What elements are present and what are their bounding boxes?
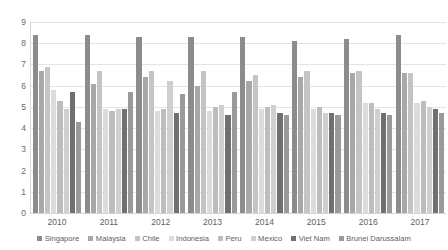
bar[interactable] xyxy=(213,107,218,213)
legend-item[interactable]: Indonesia xyxy=(169,234,209,243)
legend-label: Brunei Darussalam xyxy=(346,234,411,243)
bar[interactable] xyxy=(363,103,368,213)
x-axis-category-label: 2011 xyxy=(83,214,135,230)
plot-area: 0123456789 20102011201220132014201520162… xyxy=(0,0,448,216)
bar[interactable] xyxy=(64,109,69,213)
bar[interactable] xyxy=(195,86,200,213)
legend-item[interactable]: Malaysia xyxy=(88,234,125,243)
bar-group xyxy=(394,22,446,213)
bar-group xyxy=(342,22,394,213)
bar[interactable] xyxy=(396,35,401,213)
bar[interactable] xyxy=(375,109,380,213)
bar[interactable] xyxy=(414,103,419,213)
bar[interactable] xyxy=(97,71,102,213)
bar[interactable] xyxy=(369,103,374,213)
bar[interactable] xyxy=(277,113,282,213)
bar[interactable] xyxy=(284,115,289,213)
bar[interactable] xyxy=(439,113,444,213)
x-axis-category-label: 2010 xyxy=(31,214,83,230)
legend-item[interactable]: Chile xyxy=(135,234,160,243)
bar[interactable] xyxy=(265,107,270,213)
bar[interactable] xyxy=(317,107,322,213)
y-axis-tick-label: 2 xyxy=(4,167,26,175)
legend-swatch-icon xyxy=(218,236,223,241)
bar[interactable] xyxy=(232,92,237,213)
bar[interactable] xyxy=(304,71,309,213)
bar[interactable] xyxy=(329,113,334,213)
legend-item[interactable]: Brunei Darussalam xyxy=(339,234,411,243)
bar[interactable] xyxy=(323,113,328,213)
bar[interactable] xyxy=(116,109,121,213)
bar-group xyxy=(83,22,135,213)
bar[interactable] xyxy=(292,41,297,213)
bar[interactable] xyxy=(155,111,160,213)
bar[interactable] xyxy=(271,105,276,213)
y-axis-tick-label: 5 xyxy=(4,103,26,111)
bar[interactable] xyxy=(344,39,349,213)
bar[interactable] xyxy=(350,73,355,213)
bar[interactable] xyxy=(433,109,438,213)
y-axis-tick-label: 4 xyxy=(4,124,26,132)
bar[interactable] xyxy=(408,73,413,213)
x-axis-category-labels: 20102011201220132014201520162017 xyxy=(31,214,446,230)
bar[interactable] xyxy=(45,67,50,213)
legend-item[interactable]: Peru xyxy=(218,234,242,243)
bar[interactable] xyxy=(103,109,108,213)
bar[interactable] xyxy=(240,37,245,213)
legend-swatch-icon xyxy=(88,236,93,241)
bar[interactable] xyxy=(167,81,172,213)
bar[interactable] xyxy=(149,71,154,213)
bar[interactable] xyxy=(76,122,81,213)
bar[interactable] xyxy=(402,73,407,213)
y-axis-tick-label: 3 xyxy=(4,145,26,153)
bar[interactable] xyxy=(85,35,90,213)
y-axis-tick-label: 9 xyxy=(4,18,26,26)
bar[interactable] xyxy=(225,115,230,213)
legend-label: Chile xyxy=(142,234,159,243)
bar[interactable] xyxy=(207,111,212,213)
bar[interactable] xyxy=(311,109,316,213)
y-axis-tick-label: 8 xyxy=(4,39,26,47)
legend-item[interactable]: Mexico xyxy=(251,234,283,243)
bar[interactable] xyxy=(387,115,392,213)
x-axis-category-label: 2016 xyxy=(342,214,394,230)
bar[interactable] xyxy=(57,101,62,213)
bar[interactable] xyxy=(201,71,206,213)
bar[interactable] xyxy=(259,109,264,213)
bar[interactable] xyxy=(421,101,426,213)
legend-item[interactable]: Singapore xyxy=(37,234,79,243)
bar[interactable] xyxy=(143,77,148,213)
bar[interactable] xyxy=(109,111,114,213)
bar-group xyxy=(239,22,291,213)
bar[interactable] xyxy=(219,105,224,213)
legend-swatch-icon xyxy=(37,236,42,241)
bar[interactable] xyxy=(128,92,133,213)
bar[interactable] xyxy=(136,37,141,213)
legend-item[interactable]: Viet Nam xyxy=(291,234,330,243)
bar[interactable] xyxy=(70,92,75,213)
legend-label: Malaysia xyxy=(96,234,126,243)
bar[interactable] xyxy=(91,84,96,213)
bar[interactable] xyxy=(381,113,386,213)
bar[interactable] xyxy=(122,109,127,213)
legend-swatch-icon xyxy=(291,236,296,241)
bar-groups xyxy=(31,22,446,213)
bar[interactable] xyxy=(335,115,340,213)
x-axis-category-label: 2012 xyxy=(135,214,187,230)
x-axis-category-label: 2013 xyxy=(187,214,239,230)
bar[interactable] xyxy=(298,77,303,213)
bar[interactable] xyxy=(253,75,258,213)
bar[interactable] xyxy=(33,35,38,213)
bar[interactable] xyxy=(39,71,44,213)
bar[interactable] xyxy=(174,113,179,213)
legend-swatch-icon xyxy=(169,236,174,241)
bar[interactable] xyxy=(180,94,185,213)
legend-label: Singapore xyxy=(45,234,80,243)
bar[interactable] xyxy=(161,109,166,213)
bar[interactable] xyxy=(188,37,193,213)
bar[interactable] xyxy=(427,107,432,213)
bar[interactable] xyxy=(51,90,56,213)
bar[interactable] xyxy=(246,81,251,213)
bar[interactable] xyxy=(356,71,361,213)
y-axis-tick-label: 6 xyxy=(4,82,26,90)
